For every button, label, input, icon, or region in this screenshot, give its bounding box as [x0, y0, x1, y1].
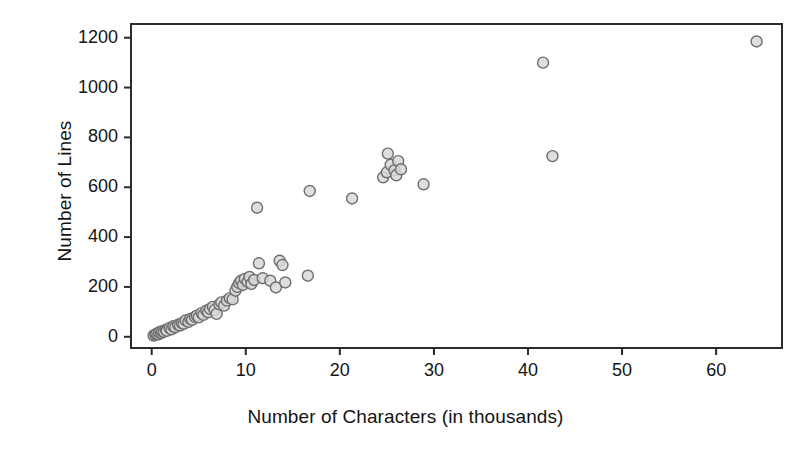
- y-tick-label: 0: [0, 326, 118, 347]
- plot-canvas: [0, 0, 811, 453]
- y-tick-label: 1000: [0, 77, 118, 98]
- y-tick-label: 1200: [0, 27, 118, 48]
- x-axis-title: Number of Characters (in thousands): [0, 406, 811, 428]
- data-point: [277, 260, 288, 271]
- x-tick-label: 60: [686, 360, 746, 381]
- data-point: [396, 164, 407, 175]
- data-point: [347, 193, 358, 204]
- data-point: [253, 258, 264, 269]
- data-point: [418, 179, 429, 190]
- data-point: [302, 270, 313, 281]
- y-tick-label: 600: [0, 176, 118, 197]
- data-point: [280, 277, 291, 288]
- data-points-layer: [148, 36, 762, 341]
- data-point: [538, 57, 549, 68]
- x-tick-label: 50: [592, 360, 652, 381]
- data-point: [304, 185, 315, 196]
- x-tick-label: 40: [498, 360, 558, 381]
- x-tick-label: 20: [310, 360, 370, 381]
- scatter-plot-figure: Number of Lines Number of Characters (in…: [0, 0, 811, 453]
- y-tick-label: 800: [0, 126, 118, 147]
- data-point: [547, 151, 558, 162]
- data-point: [751, 36, 762, 47]
- y-tick-label: 400: [0, 226, 118, 247]
- data-point: [382, 148, 393, 159]
- y-tick-label: 200: [0, 276, 118, 297]
- data-point: [252, 202, 263, 213]
- x-tick-label: 0: [122, 360, 182, 381]
- x-tick-label: 10: [216, 360, 276, 381]
- x-tick-label: 30: [404, 360, 464, 381]
